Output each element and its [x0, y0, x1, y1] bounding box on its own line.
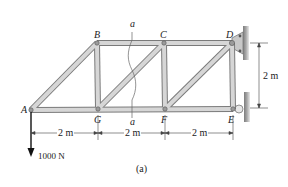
- dimension-label-fe: 2 m: [191, 128, 208, 138]
- node-label-e: E: [228, 115, 234, 125]
- load-arrow: [28, 112, 35, 157]
- figure-caption: (a): [136, 164, 147, 174]
- dimension-label-gf: 2 m: [124, 128, 141, 138]
- wall-support-bottom: [235, 92, 250, 122]
- node-label-c: C: [160, 30, 167, 40]
- node-label-b: B: [94, 30, 100, 40]
- node-label-d: D: [226, 30, 233, 40]
- node-label-a: A: [21, 105, 27, 115]
- section-label-top: a: [130, 19, 135, 29]
- node-label-g: G: [94, 115, 101, 125]
- dimension-label-vertical: 2 m: [262, 71, 279, 81]
- truss-diagram: B C D A G F E a a 2 m 2 m 2 m 2 m 1000 N…: [0, 0, 288, 187]
- node-label-f: F: [161, 115, 167, 125]
- dimension-label-ag: 2 m: [57, 128, 74, 138]
- load-label: 1000 N: [38, 152, 65, 161]
- section-label-bottom: a: [130, 117, 135, 127]
